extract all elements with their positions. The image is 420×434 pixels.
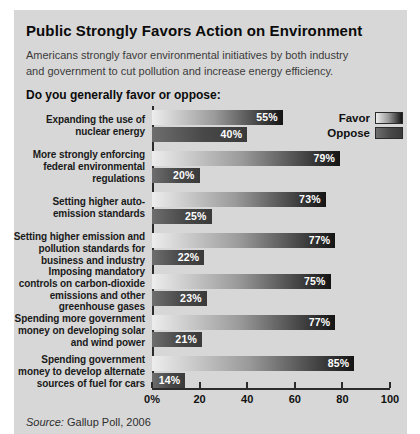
chart-group: Expanding the use of nuclear energy55%40… <box>26 110 398 142</box>
category-label-cell: More strongly enforcing federal environm… <box>26 151 152 183</box>
category-label: Expanding the use of nuclear energy <box>0 114 145 138</box>
favor-bar: 77% <box>152 315 335 330</box>
oppose-bar: 23% <box>152 291 207 306</box>
axis-tick <box>294 382 296 388</box>
oppose-bar: 25% <box>152 209 212 224</box>
x-axis: 0%20406080100 <box>152 388 390 414</box>
category-label-cell: Imposing mandatory controls on carbon-di… <box>26 274 152 306</box>
favor-value-label: 73% <box>299 192 321 207</box>
chart-group: Spending more government money on develo… <box>26 315 398 347</box>
chart-group: Setting higher auto- emission standards7… <box>26 192 398 224</box>
oppose-bar: 22% <box>152 250 204 265</box>
axis-tick <box>341 382 343 388</box>
oppose-bar: 21% <box>152 332 202 347</box>
source-text: Gallup Poll, 2006 <box>64 416 151 428</box>
favor-bar: 85% <box>152 356 354 371</box>
category-label-cell: Setting higher auto- emission standards <box>26 192 152 224</box>
source-note: Source: Gallup Poll, 2006 <box>26 416 151 428</box>
oppose-value-label: 40% <box>221 127 243 142</box>
bars-cell: 77%22% <box>152 233 390 265</box>
chart-question: Do you generally favor or oppose: <box>26 88 221 102</box>
chart-subtitle: Americans strongly favor environmental i… <box>26 48 348 80</box>
oppose-value-label: 21% <box>175 332 197 347</box>
category-label-cell: Expanding the use of nuclear energy <box>26 110 152 142</box>
oppose-value-label: 20% <box>173 168 195 183</box>
source-label: Source: <box>26 416 64 428</box>
oppose-bar: 20% <box>152 168 200 183</box>
bars-cell: 75%23% <box>152 274 390 306</box>
category-label: More strongly enforcing federal environm… <box>0 149 145 184</box>
bars-cell: 79%20% <box>152 151 390 183</box>
bar-groups: Expanding the use of nuclear energy55%40… <box>26 108 398 388</box>
chart-title: Public Strongly Favors Action on Environ… <box>26 22 362 39</box>
chart-group: More strongly enforcing federal environm… <box>26 151 398 183</box>
axis-tick-label: 80 <box>336 393 348 405</box>
chart-panel: Public Strongly Favors Action on Environ… <box>14 10 407 434</box>
oppose-value-label: 14% <box>159 373 181 388</box>
axis-tick <box>389 382 391 388</box>
favor-value-label: 55% <box>256 110 278 125</box>
favor-bar: 75% <box>152 274 331 289</box>
category-label: Setting higher auto- emission standards <box>0 196 145 220</box>
axis-tick <box>199 382 201 388</box>
favor-bar: 73% <box>152 192 326 207</box>
category-label: Setting higher emission and pollution st… <box>0 231 145 266</box>
favor-value-label: 77% <box>309 315 331 330</box>
category-label-cell: Setting higher emission and pollution st… <box>26 233 152 265</box>
bars-cell: 55%40% <box>152 110 390 142</box>
bars-cell: 73%25% <box>152 192 390 224</box>
chart-group: Imposing mandatory controls on carbon-di… <box>26 274 398 306</box>
axis-tick-label: 60 <box>289 393 301 405</box>
oppose-bar: 14% <box>152 373 185 388</box>
axis-tick-label: 100 <box>381 393 399 405</box>
axis-tick-label: 0% <box>144 393 160 405</box>
axis-tick-label: 20 <box>193 393 205 405</box>
oppose-value-label: 25% <box>185 209 207 224</box>
oppose-value-label: 23% <box>180 291 202 306</box>
category-label: Imposing mandatory controls on carbon-di… <box>0 266 145 313</box>
favor-value-label: 75% <box>304 274 326 289</box>
favor-value-label: 85% <box>328 356 350 371</box>
favor-value-label: 79% <box>313 151 335 166</box>
favor-value-label: 77% <box>309 233 331 248</box>
category-label: Spending government money to develop alt… <box>0 354 145 389</box>
favor-bar: 79% <box>152 151 340 166</box>
favor-bar: 77% <box>152 233 335 248</box>
bar-chart: Expanding the use of nuclear energy55%40… <box>26 108 398 414</box>
favor-bar: 55% <box>152 110 283 125</box>
bars-cell: 77%21% <box>152 315 390 347</box>
chart-group: Setting higher emission and pollution st… <box>26 233 398 265</box>
axis-tick-label: 40 <box>241 393 253 405</box>
category-label-cell: Spending more government money on develo… <box>26 315 152 347</box>
oppose-bar: 40% <box>152 127 247 142</box>
bars-cell: 85%14% <box>152 356 390 388</box>
axis-tick <box>151 382 153 388</box>
category-label-cell: Spending government money to develop alt… <box>26 356 152 388</box>
oppose-value-label: 22% <box>178 250 200 265</box>
category-label: Spending more government money on develo… <box>0 313 145 348</box>
y-axis-line <box>152 106 154 390</box>
axis-tick <box>246 382 248 388</box>
